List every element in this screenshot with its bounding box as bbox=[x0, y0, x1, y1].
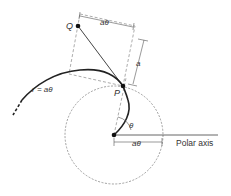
side-dim-tick-top bbox=[138, 39, 148, 41]
label-side-dim: a bbox=[136, 59, 141, 68]
label-angle: θ bbox=[129, 121, 134, 130]
spiral-curve bbox=[22, 70, 129, 135]
point-q-dot bbox=[76, 24, 81, 29]
label-p: P bbox=[114, 88, 120, 98]
point-p-dot bbox=[121, 84, 126, 89]
label-q: Q bbox=[66, 21, 73, 31]
spiral-curve-dashed-tail bbox=[13, 100, 22, 115]
label-bottom-dim: aθ bbox=[132, 139, 141, 148]
side-dim-tick-bottom bbox=[128, 84, 137, 86]
top-dim-tick-right bbox=[133, 23, 134, 30]
diagram-canvas: Q P aθ a r = aθ θ aθ Polar axis bbox=[0, 0, 231, 196]
label-curve-eq: r = aθ bbox=[32, 85, 53, 94]
label-polar-axis: Polar axis bbox=[176, 138, 213, 148]
center-dot bbox=[112, 133, 117, 138]
label-top-dim: aθ bbox=[100, 18, 109, 27]
tangent-line bbox=[78, 26, 123, 86]
